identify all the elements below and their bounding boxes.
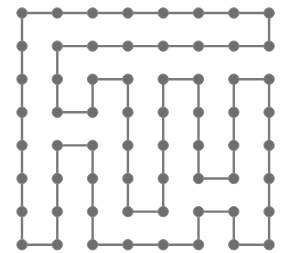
- grid-node: [158, 107, 168, 117]
- grid-node: [123, 140, 133, 150]
- grid-node: [264, 206, 274, 216]
- grid-node: [193, 206, 203, 216]
- grid-node: [264, 240, 274, 250]
- grid-node: [158, 74, 168, 84]
- grid-node: [229, 140, 239, 150]
- grid-node: [17, 140, 27, 150]
- grid-node: [193, 74, 203, 84]
- grid-node: [193, 8, 203, 18]
- grid-path-diagram: [0, 0, 284, 253]
- grid-node: [193, 173, 203, 183]
- grid-node: [87, 206, 97, 216]
- grid-node: [17, 41, 27, 51]
- grid-node: [229, 206, 239, 216]
- grid-node: [123, 240, 133, 250]
- grid-node: [17, 107, 27, 117]
- grid-node: [123, 173, 133, 183]
- grid-node: [158, 206, 168, 216]
- grid-node: [193, 240, 203, 250]
- grid-node: [193, 41, 203, 51]
- grid-node: [229, 41, 239, 51]
- grid-node: [87, 140, 97, 150]
- grid-node: [229, 8, 239, 18]
- grid-node: [123, 74, 133, 84]
- grid-node: [17, 74, 27, 84]
- grid-node: [158, 8, 168, 18]
- grid-node: [52, 173, 62, 183]
- grid-node: [52, 41, 62, 51]
- grid-node: [264, 173, 274, 183]
- grid-node: [264, 74, 274, 84]
- grid-node: [123, 41, 133, 51]
- grid-node: [264, 140, 274, 150]
- grid-node: [229, 240, 239, 250]
- grid-node: [17, 206, 27, 216]
- grid-node: [52, 8, 62, 18]
- grid-node: [123, 107, 133, 117]
- grid-node: [87, 74, 97, 84]
- grid-node: [158, 240, 168, 250]
- grid-node: [52, 140, 62, 150]
- grid-node: [17, 8, 27, 18]
- grid-nodes: [17, 8, 275, 250]
- grid-node: [193, 140, 203, 150]
- grid-node: [158, 173, 168, 183]
- grid-node: [229, 107, 239, 117]
- grid-node: [52, 107, 62, 117]
- grid-node: [87, 240, 97, 250]
- grid-node: [158, 140, 168, 150]
- grid-node: [123, 206, 133, 216]
- grid-node: [87, 8, 97, 18]
- grid-node: [264, 8, 274, 18]
- grid-node: [52, 74, 62, 84]
- grid-node: [229, 74, 239, 84]
- grid-node: [264, 41, 274, 51]
- grid-node: [17, 240, 27, 250]
- grid-node: [52, 206, 62, 216]
- grid-node: [52, 240, 62, 250]
- grid-node: [87, 41, 97, 51]
- grid-node: [17, 173, 27, 183]
- grid-node: [87, 173, 97, 183]
- grid-node: [158, 41, 168, 51]
- grid-node: [123, 8, 133, 18]
- grid-node: [264, 107, 274, 117]
- grid-node: [193, 107, 203, 117]
- grid-node: [229, 173, 239, 183]
- grid-node: [87, 107, 97, 117]
